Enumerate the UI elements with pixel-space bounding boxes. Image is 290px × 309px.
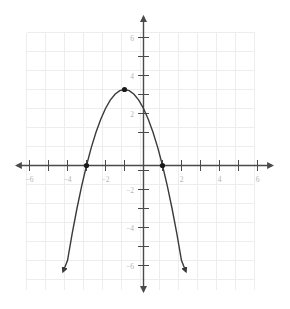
y-tick-label: −4 [126, 224, 134, 233]
x-tick-label: 4 [218, 175, 222, 184]
y-tick-label: 4 [130, 72, 134, 81]
graph-figure: −6 −4 −2 2 4 6 [0, 0, 290, 309]
x-tick-label: −2 [102, 175, 110, 184]
y-tick-label: −2 [126, 186, 134, 195]
x-tick-label: 6 [256, 175, 260, 184]
y-tick-label: 6 [130, 34, 134, 43]
plot-background [0, 0, 290, 309]
x-tick-label: −6 [26, 175, 34, 184]
x-tick-label: −4 [64, 175, 72, 184]
y-tick-label: −6 [126, 262, 134, 271]
marked-point-vertex [122, 87, 127, 92]
y-tick-label: 2 [130, 110, 134, 119]
marked-point-x-intercept-right [160, 163, 165, 168]
marked-point-x-intercept-left [84, 163, 89, 168]
x-tick-label: 2 [180, 175, 184, 184]
coordinate-plane-plot: −6 −4 −2 2 4 6 [0, 0, 290, 309]
